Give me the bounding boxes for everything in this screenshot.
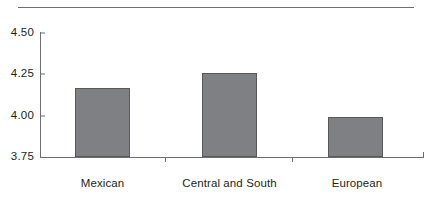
category-label-line1: European	[332, 177, 383, 189]
bar-mexican	[75, 88, 130, 157]
y-axis-label-400: 4.00	[11, 110, 40, 122]
bar-chart-figure: 4.50 4.25 4.00 3.75 Mexican Central and …	[0, 0, 432, 201]
bar-european	[328, 117, 383, 157]
y-axis-tick-400	[40, 115, 45, 116]
y-axis-tick-425	[40, 74, 45, 75]
y-axis-tick-450	[40, 33, 45, 34]
category-label-line1: Central and South	[182, 177, 276, 189]
plot-area: 4.50 4.25 4.00 3.75	[40, 33, 424, 157]
y-axis-label-375: 3.75	[11, 151, 40, 163]
y-axis-label-450: 4.50	[11, 27, 40, 39]
x-axis-category-label-central-and-south-american: Central and South American	[166, 162, 293, 201]
x-axis-category-label-mexican: Mexican	[40, 162, 165, 190]
top-divider-rule	[18, 7, 414, 8]
category-label-line1: Mexican	[81, 177, 125, 189]
x-axis-line	[40, 157, 424, 158]
bar-central-and-south-american	[202, 73, 257, 157]
y-axis-label-425: 4.25	[11, 69, 40, 81]
x-axis-category-label-european: European	[293, 162, 421, 190]
